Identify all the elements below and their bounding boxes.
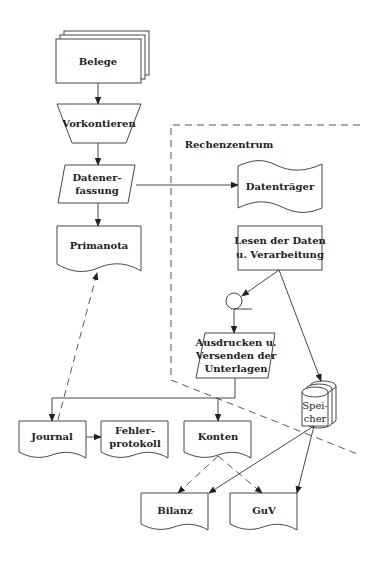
guv-label: GuV (252, 505, 276, 516)
vorkontieren-label: Vorkontieren (61, 118, 136, 129)
node-datenerfassung: Datener- fassung (58, 165, 135, 203)
node-konten: Konten (184, 421, 251, 458)
node-vorkontieren: Vorkontieren (57, 104, 141, 143)
flowchart-canvas: Rechenzentrum Belege Vorkontieren Datene… (0, 0, 381, 567)
bilanz-label: Bilanz (157, 505, 193, 516)
node-journal: Journal (19, 421, 86, 458)
journal-label: Journal (30, 431, 73, 442)
speicher-label-line1: Spei- (302, 400, 328, 411)
node-datentraeger: Datenträger (238, 161, 322, 213)
node-primanota: Primanota (57, 226, 141, 271)
node-fehlerprotokoll: Fehler- protokoll (101, 421, 168, 458)
lesen-label-line1: Lesen der Daten (234, 235, 326, 246)
fehlerprotokoll-label-line1: Fehler- (115, 425, 155, 436)
node-connector (226, 293, 252, 309)
rechenzentrum-label: Rechenzentrum (185, 139, 274, 150)
edge-konten-bilanz (178, 456, 218, 493)
edge-ausdrucken-bus (52, 378, 235, 398)
primanota-label: Primanota (70, 240, 129, 251)
lesen-label-line2: u. Verarbeitung (236, 249, 324, 260)
ausdrucken-label-line3: Unterlagen (204, 363, 268, 374)
edge-lesen-connector (242, 270, 279, 296)
datentraeger-label: Datenträger (246, 181, 315, 192)
edge-lesen-speicher (279, 270, 321, 381)
node-speicher: Spei- cher (302, 381, 336, 428)
fehlerprotokoll-label-line2: protokoll (109, 438, 161, 449)
edge-speicher-guv (297, 426, 314, 493)
node-ausdrucken: Ausdrucken u. Versenden der Unterlagen (194, 333, 277, 378)
node-bilanz: Bilanz (141, 493, 208, 530)
ausdrucken-label-line2: Versenden der (195, 350, 277, 361)
ausdrucken-label-line1: Ausdrucken u. (194, 337, 276, 348)
node-lesen: Lesen der Daten u. Verarbeitung (234, 226, 326, 270)
datenerfassung-label-line2: fassung (75, 185, 119, 196)
node-belege: Belege (56, 31, 149, 83)
konten-label: Konten (198, 431, 239, 442)
node-guv: GuV (230, 493, 297, 530)
speicher-label-line2: cher (304, 413, 327, 424)
datenerfassung-label-line1: Datener- (72, 172, 121, 183)
belege-label: Belege (79, 56, 117, 67)
edge-konten-guv (218, 456, 262, 493)
